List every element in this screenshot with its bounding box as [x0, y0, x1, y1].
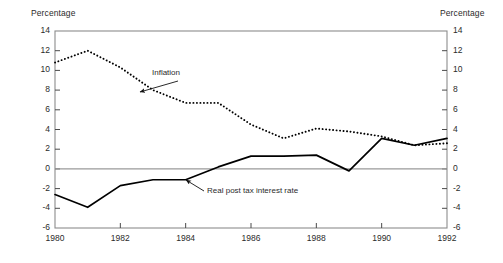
y-tick-label-left: 12 — [28, 45, 50, 55]
y-tick-label-right: -2 — [453, 183, 475, 193]
y-tick-label-right: -6 — [453, 222, 475, 232]
y-tick-label-right: 8 — [453, 84, 475, 94]
y-tick-label-right: 6 — [453, 104, 475, 114]
y-tick-label-right: 2 — [453, 143, 475, 153]
x-tick-label: 1984 — [169, 233, 203, 243]
y-tick-label-right: -4 — [453, 202, 475, 212]
annotation-arrows — [140, 81, 204, 191]
series-annotation-label: Inflation — [152, 68, 180, 77]
y-tick-label-left: 2 — [28, 143, 50, 153]
axes — [55, 31, 447, 228]
y-tick-label-left: -6 — [28, 222, 50, 232]
y-tick-label-left: 10 — [28, 64, 50, 74]
y-tick-label-right: 10 — [453, 64, 475, 74]
y-tick-label-left: 0 — [28, 163, 50, 173]
x-tick-label: 1988 — [299, 233, 333, 243]
x-tick-label: 1980 — [38, 233, 72, 243]
x-tick-label: 1982 — [103, 233, 137, 243]
series-annotation-label: Real post tax interest rate — [207, 186, 298, 195]
y-tick-label-right: 4 — [453, 124, 475, 134]
data-series — [55, 51, 447, 208]
y-tick-label-left: 14 — [28, 25, 50, 35]
y-tick-label-left: 6 — [28, 104, 50, 114]
chart-figure: Percentage Percentage 14121086420-2-4-6 … — [0, 0, 503, 263]
y-tick-label-right: 14 — [453, 25, 475, 35]
y-tick-label-left: -2 — [28, 183, 50, 193]
x-tick-label: 1986 — [234, 233, 268, 243]
plot-area — [0, 0, 503, 263]
y-tick-label-right: 0 — [453, 163, 475, 173]
x-tick-label: 1990 — [365, 233, 399, 243]
y-tick-label-left: -4 — [28, 202, 50, 212]
y-tick-label-left: 8 — [28, 84, 50, 94]
x-tick-label: 1992 — [430, 233, 464, 243]
y-tick-label-left: 4 — [28, 124, 50, 134]
y-tick-label-right: 12 — [453, 45, 475, 55]
